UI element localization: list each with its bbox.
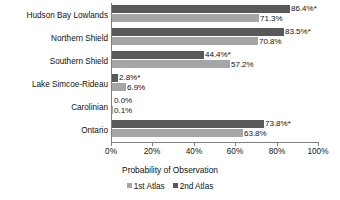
bar-2nd-atlas (112, 5, 290, 13)
bar-value-label: 70.8% (259, 38, 282, 46)
bar-value-label: 73.8%* (265, 120, 291, 128)
bar-1st-atlas (112, 129, 243, 137)
category-label: Hudson Bay Lowlands (2, 11, 108, 20)
x-axis-title: Probability of Observation (0, 165, 340, 175)
bar-1st-atlas (112, 37, 258, 45)
x-axis-tick-label: 80% (260, 147, 294, 156)
bar-2nd-atlas (112, 120, 264, 128)
bar-value-label: 57.2% (231, 61, 254, 69)
category-label: Southern Shield (2, 57, 108, 66)
legend-swatch-icon (127, 183, 132, 188)
x-axis-tick-label: 0% (94, 147, 128, 156)
legend-item-1st-atlas[interactable]: 1st Atlas (127, 182, 165, 192)
legend-swatch-icon (173, 183, 178, 188)
bar-chart: Hudson Bay Lowlands Northern Shield Sout… (0, 0, 340, 200)
x-axis-tick-label: 20% (135, 147, 169, 156)
legend-item-2nd-atlas[interactable]: 2nd Atlas (173, 182, 214, 192)
x-axis-tick (152, 143, 153, 146)
bar-value-label: 63.8% (244, 130, 267, 138)
category-label: Northern Shield (2, 34, 108, 43)
x-axis-tick-label: 40% (177, 147, 211, 156)
x-axis-line (111, 142, 319, 143)
bar-value-label: 0.1% (114, 107, 132, 115)
bar-2nd-atlas (112, 28, 284, 36)
x-axis-tick (318, 143, 319, 146)
x-axis-tick (194, 143, 195, 146)
x-axis-tick-label: 60% (218, 147, 252, 156)
x-axis-tick-label: 100% (301, 147, 335, 156)
category-label: Carolinian (2, 103, 108, 112)
bar-1st-atlas (112, 83, 126, 91)
chart-legend: 1st Atlas2nd Atlas (0, 182, 340, 192)
category-label: Lake Simcoe-Rideau (2, 80, 108, 89)
y-axis-line (111, 3, 112, 142)
x-axis-tick (111, 143, 112, 146)
bar-value-label: 71.3% (260, 15, 283, 23)
x-axis-tick (277, 143, 278, 146)
legend-label: 1st Atlas (134, 182, 165, 191)
bar-1st-atlas (112, 106, 113, 114)
bar-value-label: 6.9% (127, 84, 145, 92)
bar-1st-atlas (112, 60, 230, 68)
bar-value-label: 2.8%* (119, 74, 140, 82)
category-label: Ontario (2, 126, 108, 135)
x-axis-tick (235, 143, 236, 146)
bar-2nd-atlas (112, 51, 204, 59)
bar-2nd-atlas (112, 74, 118, 82)
bar-value-label: 86.4%* (291, 5, 317, 13)
bar-value-label: 44.4%* (205, 51, 231, 59)
bar-1st-atlas (112, 14, 259, 22)
legend-label: 2nd Atlas (180, 182, 214, 191)
bar-value-label: 0.0% (114, 97, 132, 105)
bar-value-label: 83.5%* (285, 28, 311, 36)
